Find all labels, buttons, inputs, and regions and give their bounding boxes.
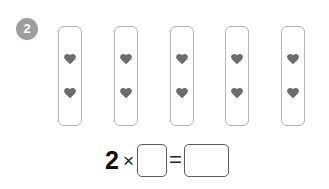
heart-icon [230,86,244,100]
equals-sign: = [169,149,182,171]
equation-row: 2 × = [105,142,229,178]
heart-icon [175,86,189,100]
heart-icon [286,52,300,66]
heart-icon [175,52,189,66]
groups-row [58,26,305,126]
group-card-1 [58,26,82,126]
group-card-3 [170,26,194,126]
worksheet-canvas: 2 [0,0,329,189]
heart-icon [286,86,300,100]
group-card-2 [114,26,138,126]
heart-icon [119,86,133,100]
question-number-badge: 2 [16,18,38,40]
heart-icon [63,86,77,100]
result-answer-box[interactable] [184,144,229,177]
factor-answer-box[interactable] [137,144,167,177]
group-card-5 [281,26,305,126]
multiplication-sign: × [123,151,134,170]
heart-icon [63,52,77,66]
heart-icon [119,52,133,66]
heart-icon [230,52,244,66]
group-card-4 [225,26,249,126]
equation-multiplicand: 2 [105,148,119,173]
